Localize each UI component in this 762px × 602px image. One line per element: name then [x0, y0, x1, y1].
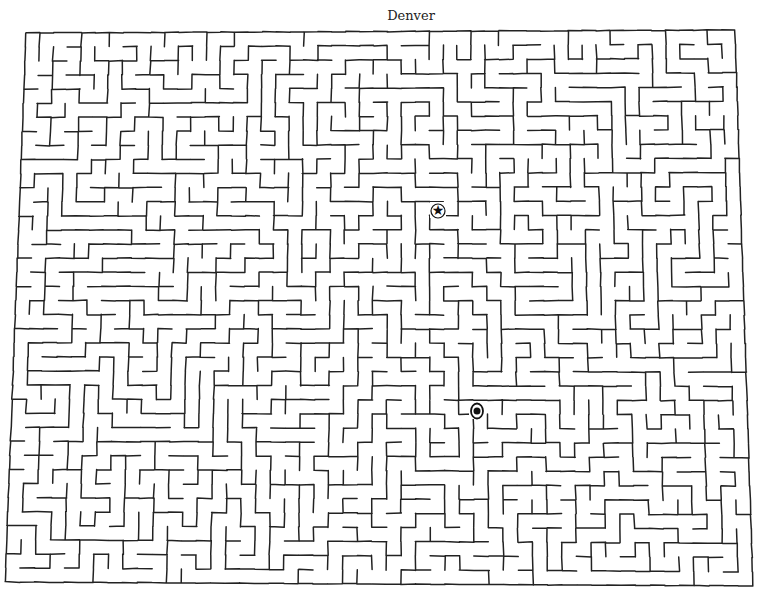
city-dot-icon — [469, 403, 485, 419]
state-maze[interactable]: ★ — [0, 0, 762, 602]
svg-text:★: ★ — [432, 202, 445, 218]
maze-walls — [5, 30, 753, 586]
capital-star-icon: ★ — [430, 202, 446, 218]
